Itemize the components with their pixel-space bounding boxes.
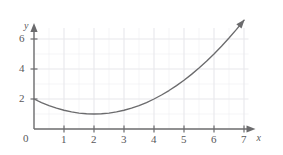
chart-figure: 01234567246xy <box>0 0 283 155</box>
y-axis-arrowhead-icon <box>30 23 37 32</box>
x-tick-label-5: 5 <box>181 134 187 145</box>
origin-tick-label: 0 <box>23 133 29 144</box>
chart-canvas <box>0 0 283 155</box>
x-tick-label-4: 4 <box>151 134 157 145</box>
x-axis-arrowhead-icon <box>247 125 256 132</box>
y-tick-label-2: 2 <box>19 93 25 104</box>
axis-ticks <box>31 39 245 133</box>
x-tick-label-2: 2 <box>91 134 97 145</box>
y-tick-label-4: 4 <box>19 63 25 74</box>
y-tick-label-6: 6 <box>19 33 25 44</box>
x-tick-label-1: 1 <box>61 134 67 145</box>
x-tick-label-6: 6 <box>211 134 217 145</box>
x-tick-label-3: 3 <box>121 134 127 145</box>
y-axis-name-label: y <box>24 21 28 31</box>
minor-gridlines <box>34 28 249 129</box>
x-tick-label-7: 7 <box>241 134 247 145</box>
x-axis-name-label: x <box>257 133 261 143</box>
